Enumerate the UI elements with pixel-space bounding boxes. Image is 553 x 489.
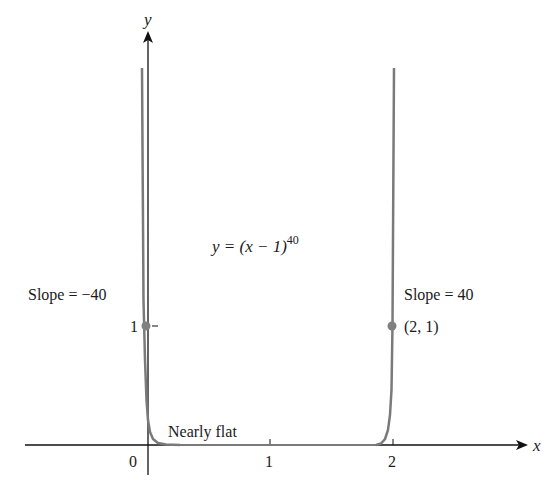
- x-tick-label-1: 1: [265, 453, 273, 470]
- x-tick-label-2: 2: [388, 453, 396, 470]
- slope-right-label: Slope = 40: [404, 286, 473, 304]
- equation-label: y = (x − 1)40: [210, 233, 299, 256]
- curve-right-branch: [376, 68, 394, 445]
- point-0-1: [142, 322, 151, 331]
- nearly-flat-label: Nearly flat: [168, 423, 237, 441]
- x-tick-label-0: 0: [129, 453, 137, 470]
- y-axis-label: y: [142, 10, 152, 29]
- equation-exponent: 40: [287, 233, 299, 247]
- y-tick-label-1: 1: [130, 318, 138, 335]
- function-graph: y x 0 1 2 1 y = (x − 1)40 Slope = −40 Sl…: [0, 0, 553, 489]
- slope-left-label: Slope = −40: [28, 286, 107, 304]
- point-2-1: [388, 322, 397, 331]
- point-2-1-label: (2, 1): [404, 318, 439, 336]
- equation-lhs: y = (x − 1): [210, 237, 287, 256]
- x-axis-label: x: [532, 436, 541, 455]
